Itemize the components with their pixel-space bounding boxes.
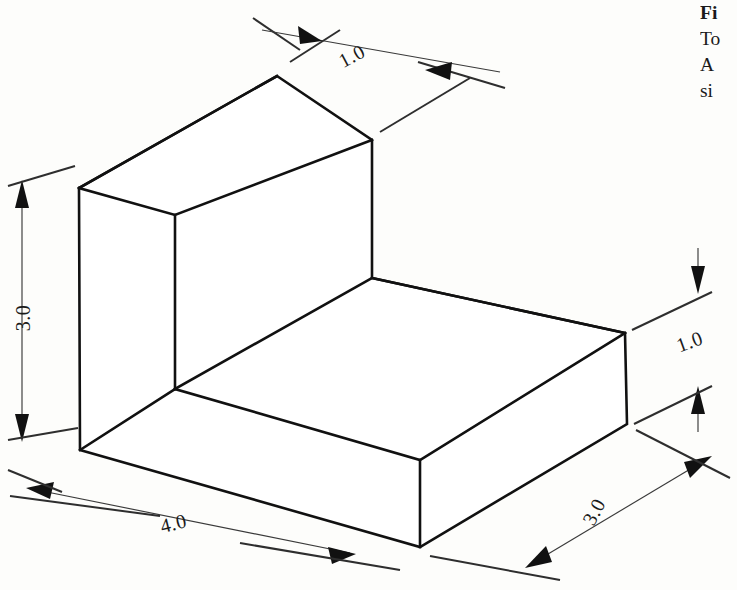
dim-line-bottom-right-depth [533,462,702,563]
arrow-top-left [298,26,322,44]
caption-line-1: Fi [700,0,737,26]
ext-line-bottom-left-mid [10,496,160,516]
dim-label-top-depth: 1.0 [335,40,369,72]
ext-line-br-high [636,430,730,478]
caption-line-3: A [700,52,737,78]
ext-line-left-top [8,166,75,186]
arrow-bottom-right-low [525,546,552,568]
figure-canvas: 1.0 3.0 4.0 3.0 1.0 Fi To A si [0,0,737,590]
dim-label-right-height: 1.0 [673,327,705,357]
dim-label-bottom-right-depth: 3.0 [578,495,610,529]
arrow-right-down [691,266,705,294]
ext-line-right-top [632,292,712,330]
ext-line-left-bottom [8,428,78,440]
ext-line-top-object-ref [290,30,340,62]
dim-label-bottom-width: 4.0 [158,509,189,537]
caption-line-4: si [700,78,737,104]
ext-line-top-left [253,18,300,50]
dim-line-top-depth [262,30,500,72]
arrow-bottom-left [26,482,54,499]
caption-line-2: To [700,26,737,52]
figure-caption: Fi To A si [700,0,737,104]
ext-line-top-object-ref2 [380,78,470,132]
isometric-drawing: 1.0 3.0 4.0 3.0 1.0 [0,0,737,590]
dim-label-left-height: 3.0 [12,305,34,332]
